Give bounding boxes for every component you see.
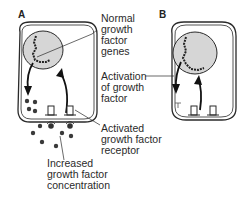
nucleus-a	[23, 31, 63, 69]
receptor-b1	[188, 106, 200, 115]
label-activated-growth-factor-receptor: Activated growth factor receptor	[101, 123, 162, 156]
receptor-a1	[45, 106, 57, 129]
label-normal-growth-factor-genes: Normal growth factor genes	[101, 13, 135, 57]
cell-a	[18, 22, 100, 160]
label-increased-growth-factor-concentration: Increased growth factor concentration	[47, 158, 110, 191]
panel-label-b: B	[159, 9, 166, 20]
panel-label-a: A	[18, 9, 25, 20]
cell-b	[145, 22, 236, 120]
label-activation-of-growth-factor: Activation of growth factor	[101, 71, 147, 104]
receptor-b2	[207, 106, 219, 115]
